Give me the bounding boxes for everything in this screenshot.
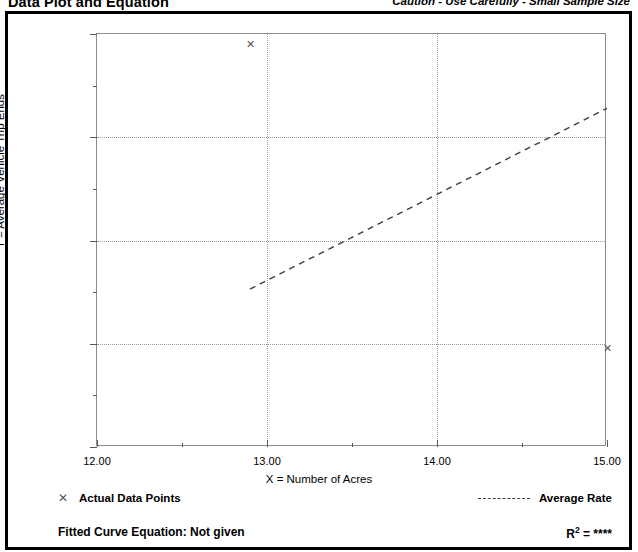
r-squared-prefix: R [566,527,575,541]
y-axis-label: T = Average Vehicle Trip Ends [0,94,6,248]
legend-item-average-rate: Average Rate [478,492,612,504]
plot-frame: 9001,0001,1001,2001,30012.0013.0014.0015… [96,33,606,446]
legend: ✕ Actual Data Points Average Rate [0,492,638,518]
y-axis-tick [90,137,97,138]
legend-label-average-rate: Average Rate [539,492,612,504]
x-axis-tick-label: 14.00 [423,455,451,467]
legend-item-actual-data-points: ✕ Actual Data Points [58,492,181,504]
caution-note: Caution - Use Carefully - Small Sample S… [392,0,630,7]
x-axis-tick-label: 15.00 [593,455,621,467]
x-axis-tick-label: 12.00 [83,455,111,467]
footer: Fitted Curve Equation: Not given R2 = **… [0,522,638,548]
x-axis-tick-label: 13.00 [253,455,281,467]
legend-label-actual-data-points: Actual Data Points [79,492,181,504]
y-axis-tick [90,241,97,242]
cross-marker-icon: ✕ [58,492,68,504]
x-axis-label: X = Number of Acres [0,473,638,485]
y-axis-tick [90,34,97,35]
chart-area: T = Average Vehicle Trip Ends X = Number… [0,16,638,486]
r-squared-number: = **** [580,527,612,541]
data-point-marker: ✕ [603,344,612,353]
x-axis-tick [607,440,608,447]
y-axis-tick [90,344,97,345]
data-point-marker: ✕ [246,40,255,49]
y-axis-tick [90,447,97,448]
fitted-curve-equation: Fitted Curve Equation: Not given [58,525,245,539]
average-rate-line [97,34,607,447]
dashed-line-icon [478,498,530,499]
page-title: Data Plot and Equation [8,0,169,10]
r-squared-value: R2 = **** [566,525,612,541]
